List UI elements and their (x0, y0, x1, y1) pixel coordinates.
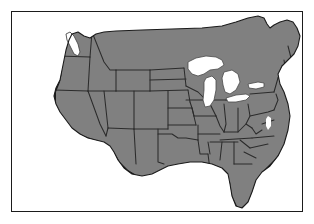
boundary-ny-ne (278, 76, 292, 78)
map-frame-border: shaded area unshaded area United States … (11, 11, 303, 212)
us-map-svg (12, 12, 304, 213)
map-figure: shaded area unshaded area United States … (0, 0, 314, 224)
boundary-ma-ct-ri (282, 70, 298, 72)
